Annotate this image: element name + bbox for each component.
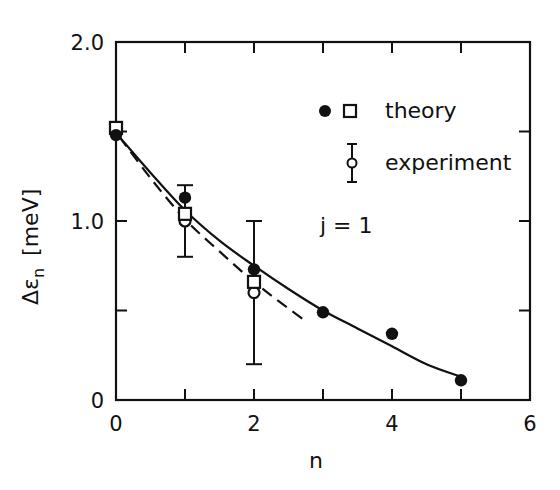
- theory-filled-point: [248, 263, 260, 275]
- y-axis-title: Δεn[meV]: [18, 189, 48, 305]
- y-tick-label: 1.0: [71, 210, 104, 234]
- legend-theory-label: theory: [385, 98, 457, 123]
- theory-filled-point: [179, 192, 191, 204]
- y-tick-label: 0: [91, 389, 104, 413]
- x-axis-title: n: [309, 448, 323, 473]
- theory-square-point: [179, 208, 191, 220]
- legend-open-square-icon: [344, 105, 356, 117]
- legend-experiment-label: experiment: [385, 150, 512, 175]
- x-tick-label: 4: [385, 412, 398, 436]
- theory-filled-point: [317, 306, 329, 318]
- axis-tick-labels: 024601.02.0: [71, 31, 537, 436]
- chart-figure: 024601.02.0 theory experiment j = 1 n Δε…: [0, 0, 560, 490]
- theory-filled-point: [110, 129, 122, 141]
- y-axis-symbol: Δε: [18, 278, 43, 305]
- legend-errorbar-icon: [347, 144, 357, 182]
- legend: theory experiment j = 1: [319, 98, 512, 238]
- theory-filled-point: [386, 328, 398, 340]
- x-tick-label: 0: [109, 412, 122, 436]
- y-tick-label: 2.0: [71, 31, 104, 55]
- legend-filled-circle-icon: [319, 105, 331, 117]
- x-tick-label: 6: [523, 412, 536, 436]
- svg-text:Δεn[meV]: Δεn[meV]: [18, 189, 48, 305]
- annotation-j-equals-1: j = 1: [319, 213, 373, 238]
- theory-square-point: [248, 276, 260, 288]
- y-axis-subscript: n: [29, 268, 48, 278]
- x-tick-label: 2: [247, 412, 260, 436]
- theory-filled-point: [455, 374, 467, 386]
- y-axis-unit: [meV]: [18, 189, 43, 256]
- dashed-curve: [119, 137, 305, 321]
